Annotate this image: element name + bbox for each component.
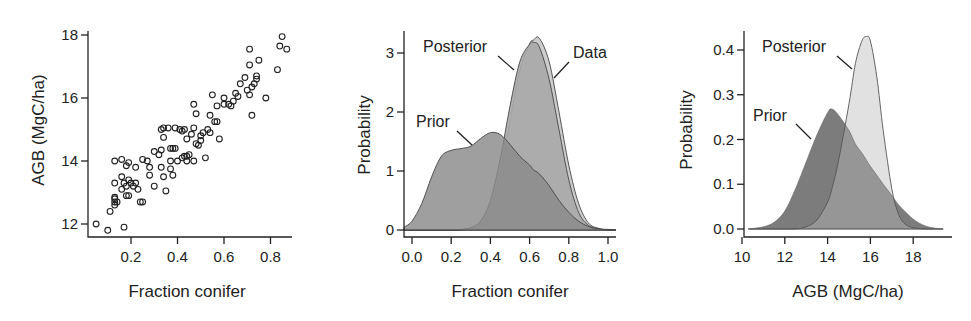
data-point <box>93 221 99 227</box>
posterior-label: Posterior <box>762 38 827 55</box>
data-point <box>184 136 190 142</box>
data-point <box>133 164 139 170</box>
x-tick-label: 1.0 <box>598 248 619 265</box>
agb-density-panel: 0.00.10.20.30.4 1012141618 AGB (MgC/ha) … <box>677 31 952 301</box>
data-point <box>221 95 227 101</box>
y-axis-ticks: 0.00.10.20.30.4 <box>713 41 744 237</box>
data-point <box>256 57 262 63</box>
x-tick-label: 0.4 <box>480 248 501 265</box>
y-tick-label: 0.0 <box>713 220 734 237</box>
y-tick-label: 1 <box>386 162 394 179</box>
x-tick-label: 14 <box>819 248 836 265</box>
data-point <box>107 209 113 215</box>
prior-overlap-area <box>748 109 943 229</box>
data-point <box>279 34 285 40</box>
y-tick-label: 16 <box>61 89 78 106</box>
prior-leader-line <box>457 131 472 145</box>
y-axis-title: Probability <box>677 90 696 170</box>
density-areas <box>748 36 943 229</box>
prior-leader-line <box>796 124 811 139</box>
data-point <box>193 111 199 117</box>
y-axis-ticks: 12141618 <box>61 26 88 232</box>
data-point <box>168 158 174 164</box>
data-point <box>119 157 125 163</box>
x-axis-title: AGB (MgC/ha) <box>792 282 903 301</box>
data-point <box>158 164 164 170</box>
data-point <box>216 136 222 142</box>
x-axis-ticks: 0.20.40.60.8 <box>121 237 281 265</box>
x-tick-label: 10 <box>734 248 751 265</box>
data-point <box>191 158 197 164</box>
data-point <box>207 112 213 118</box>
data-point <box>112 158 118 164</box>
data-point <box>237 81 243 87</box>
data-leader-line <box>554 62 569 78</box>
y-tick-label: 12 <box>61 215 78 232</box>
x-axis-ticks: 1012141618 <box>734 237 922 265</box>
x-tick-label: 0.0 <box>402 248 423 265</box>
conifer-density-panel: 0123 0.00.20.40.60.81.0 Fraction conifer… <box>355 31 618 301</box>
x-tick-label: 0.8 <box>558 248 579 265</box>
y-tick-label: 14 <box>61 152 78 169</box>
data-point <box>209 92 215 98</box>
data-point <box>161 174 167 180</box>
data-point <box>168 166 174 172</box>
data-point <box>247 62 253 68</box>
data-point <box>247 46 253 52</box>
data-point <box>189 131 195 137</box>
data-point <box>284 46 290 52</box>
y-tick-label: 0 <box>386 221 394 238</box>
data-point <box>105 227 111 233</box>
data-point <box>112 180 118 186</box>
x-axis-title: Fraction conifer <box>128 282 245 301</box>
data-point <box>147 164 153 170</box>
y-tick-label: 0.3 <box>713 86 734 103</box>
x-axis-ticks: 0.00.20.40.60.81.0 <box>402 237 619 265</box>
x-axis-title: Fraction conifer <box>451 282 568 301</box>
x-tick-label: 0.2 <box>121 248 142 265</box>
x-tick-label: 16 <box>862 248 879 265</box>
data-point <box>161 134 167 140</box>
data-point <box>247 92 253 98</box>
y-tick-label: 3 <box>386 44 394 61</box>
figure: 12141618 0.20.40.60.8 Fraction conifer A… <box>0 0 971 321</box>
prior-label: Prior <box>416 113 450 130</box>
data-point <box>147 172 153 178</box>
data-point <box>191 125 197 131</box>
posterior-leader-line <box>837 56 852 69</box>
data-point <box>119 174 125 180</box>
prior-label: Prior <box>753 107 787 124</box>
data-point <box>275 67 281 73</box>
x-tick-label: 0.2 <box>441 248 462 265</box>
data-point <box>158 147 164 153</box>
data-point <box>135 186 141 192</box>
posterior-label: Posterior <box>423 38 488 55</box>
data-point <box>151 183 157 189</box>
x-tick-label: 0.6 <box>519 248 540 265</box>
x-tick-label: 0.6 <box>214 248 235 265</box>
data-point <box>214 103 220 109</box>
data-point <box>170 172 176 178</box>
data-point <box>263 95 269 101</box>
x-tick-label: 0.4 <box>167 248 188 265</box>
y-axis-ticks: 0123 <box>386 44 404 238</box>
data-point <box>230 98 236 104</box>
data-point <box>242 75 248 81</box>
y-tick-label: 0.1 <box>713 175 734 192</box>
data-point <box>277 43 283 49</box>
y-tick-label: 2 <box>386 103 394 120</box>
scatter-points <box>93 34 289 234</box>
data-point <box>203 155 209 161</box>
data-point <box>121 224 127 230</box>
scatter-panel: 12141618 0.20.40.60.8 Fraction conifer A… <box>29 26 292 301</box>
x-tick-label: 0.8 <box>260 248 281 265</box>
x-tick-label: 18 <box>905 248 922 265</box>
data-point <box>249 112 255 118</box>
y-tick-label: 0.2 <box>713 131 734 148</box>
y-axis-title: Probability <box>355 95 374 175</box>
y-tick-label: 18 <box>61 26 78 43</box>
data-label: Data <box>573 44 607 61</box>
y-tick-label: 0.4 <box>713 41 734 58</box>
y-axis-title: AGB (MgC/ha) <box>29 74 48 185</box>
data-point <box>163 188 169 194</box>
